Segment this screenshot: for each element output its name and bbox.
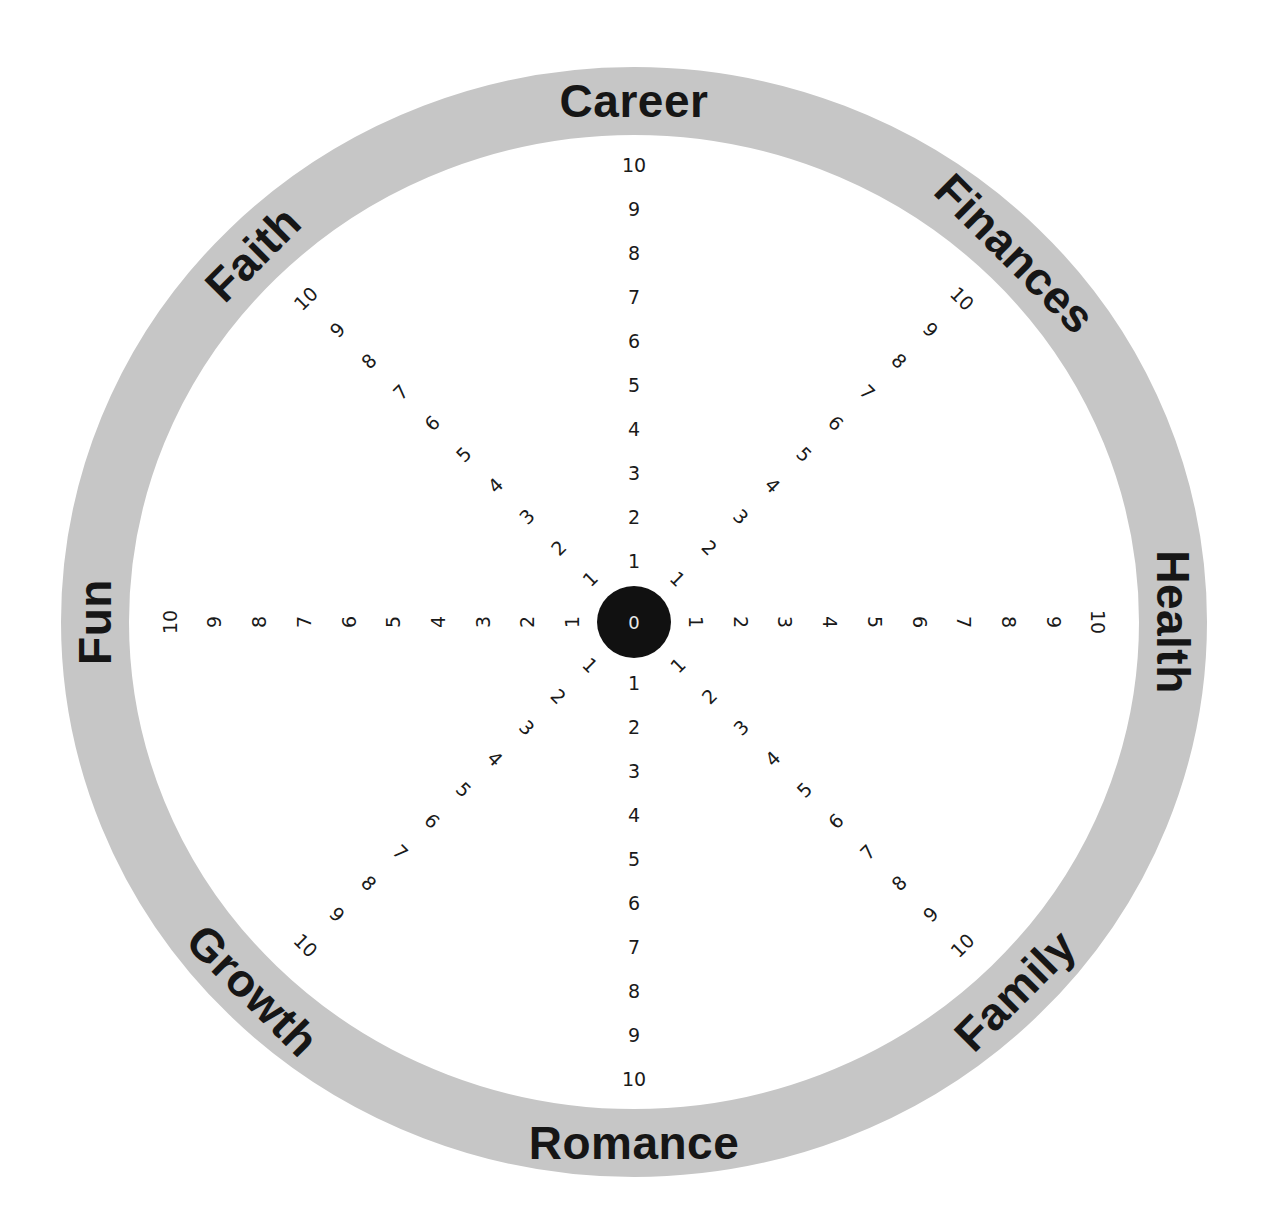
tick-finances-7: 7 <box>855 380 879 404</box>
tick-faith-6: 6 <box>420 411 444 435</box>
tick-health-7: 7 <box>953 616 975 628</box>
tick-faith-5: 5 <box>452 442 476 466</box>
hub-zero-label: 0 <box>628 612 639 633</box>
tick-growth-8: 8 <box>357 871 381 895</box>
tick-faith-3: 3 <box>515 504 539 528</box>
tick-growth-10: 10 <box>289 929 322 962</box>
tick-romance-1: 1 <box>628 672 640 694</box>
spoke-health: 12345678910 <box>685 610 1109 634</box>
spoke-fun: 12345678910 <box>159 610 583 634</box>
tick-romance-3: 3 <box>628 760 640 782</box>
tick-romance-5: 5 <box>628 848 640 870</box>
spoke-growth: 12345678910 <box>289 653 602 962</box>
tick-career-3: 3 <box>628 462 640 484</box>
tick-faith-1: 1 <box>578 567 602 591</box>
tick-career-4: 4 <box>628 418 640 440</box>
tick-fun-10: 10 <box>159 610 181 634</box>
tick-family-2: 2 <box>697 684 721 708</box>
tick-faith-9: 9 <box>325 318 349 342</box>
tick-health-1: 1 <box>685 616 707 628</box>
tick-romance-7: 7 <box>628 936 640 958</box>
tick-fun-3: 3 <box>472 616 494 628</box>
tick-faith-10: 10 <box>289 282 322 315</box>
tick-fun-4: 4 <box>427 616 449 628</box>
tick-health-8: 8 <box>998 616 1020 628</box>
tick-finances-3: 3 <box>729 504 753 528</box>
tick-fun-1: 1 <box>561 616 583 628</box>
tick-faith-2: 2 <box>547 536 571 560</box>
tick-romance-8: 8 <box>628 980 640 1002</box>
tick-growth-4: 4 <box>483 747 507 771</box>
tick-fun-8: 8 <box>248 616 270 628</box>
category-label-finances: Finances <box>925 163 1106 344</box>
tick-career-10: 10 <box>622 154 646 176</box>
tick-health-4: 4 <box>819 616 841 628</box>
tick-career-5: 5 <box>628 374 640 396</box>
tick-growth-1: 1 <box>578 653 602 677</box>
tick-family-6: 6 <box>824 809 848 833</box>
tick-fun-5: 5 <box>382 616 404 628</box>
tick-finances-5: 5 <box>792 442 816 466</box>
tick-family-8: 8 <box>887 871 911 895</box>
tick-career-9: 9 <box>628 198 640 220</box>
tick-finances-10: 10 <box>946 282 979 315</box>
spoke-finances: 12345678910 <box>666 282 979 591</box>
tick-faith-7: 7 <box>388 380 412 404</box>
tick-romance-2: 2 <box>628 716 640 738</box>
tick-finances-4: 4 <box>761 473 785 497</box>
tick-health-5: 5 <box>864 616 886 628</box>
tick-family-1: 1 <box>666 653 690 677</box>
tick-career-1: 1 <box>628 550 640 572</box>
tick-finances-8: 8 <box>887 349 911 373</box>
category-label-fun: Fun <box>69 579 121 665</box>
category-label-romance: Romance <box>529 1117 740 1169</box>
tick-romance-9: 9 <box>628 1024 640 1046</box>
tick-family-10: 10 <box>946 929 979 962</box>
tick-health-2: 2 <box>730 616 752 628</box>
tick-health-9: 9 <box>1043 616 1065 628</box>
tick-career-2: 2 <box>628 506 640 528</box>
tick-growth-2: 2 <box>547 684 571 708</box>
tick-faith-4: 4 <box>483 473 507 497</box>
tick-romance-4: 4 <box>628 804 640 826</box>
category-label-health: Health <box>1147 550 1199 694</box>
tick-family-3: 3 <box>729 715 753 739</box>
tick-romance-10: 10 <box>622 1068 646 1090</box>
life-wheel-diagram: 1234567891012345678910123456789101234567… <box>0 0 1264 1219</box>
spoke-romance: 12345678910 <box>622 672 646 1090</box>
tick-family-5: 5 <box>792 778 816 802</box>
tick-fun-7: 7 <box>293 616 315 628</box>
tick-health-6: 6 <box>909 616 931 628</box>
tick-finances-6: 6 <box>824 411 848 435</box>
spoke-faith: 12345678910 <box>289 282 602 591</box>
tick-career-7: 7 <box>628 286 640 308</box>
tick-growth-6: 6 <box>420 809 444 833</box>
center-hub: 0 <box>597 586 671 658</box>
category-label-career: Career <box>560 75 709 127</box>
tick-fun-9: 9 <box>203 616 225 628</box>
tick-growth-9: 9 <box>325 902 349 926</box>
tick-finances-2: 2 <box>697 536 721 560</box>
spoke-family: 12345678910 <box>666 653 979 962</box>
tick-health-3: 3 <box>774 616 796 628</box>
tick-family-9: 9 <box>919 902 943 926</box>
tick-faith-8: 8 <box>357 349 381 373</box>
tick-family-7: 7 <box>855 840 879 864</box>
tick-fun-6: 6 <box>338 616 360 628</box>
tick-growth-5: 5 <box>452 778 476 802</box>
tick-growth-3: 3 <box>515 715 539 739</box>
tick-career-8: 8 <box>628 242 640 264</box>
tick-romance-6: 6 <box>628 892 640 914</box>
tick-career-6: 6 <box>628 330 640 352</box>
spoke-career: 12345678910 <box>622 154 646 572</box>
tick-finances-1: 1 <box>666 567 690 591</box>
tick-growth-7: 7 <box>388 840 412 864</box>
tick-family-4: 4 <box>761 747 785 771</box>
tick-health-10: 10 <box>1087 610 1109 634</box>
tick-finances-9: 9 <box>919 318 943 342</box>
tick-fun-2: 2 <box>516 616 538 628</box>
